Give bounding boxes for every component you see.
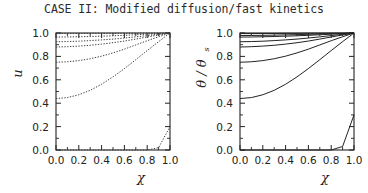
y-tick-label: 0.4 (216, 97, 233, 109)
plot-frame (240, 33, 354, 150)
y-tick-label: 0.0 (216, 144, 233, 156)
plot-left-content: 0.00.20.40.60.81.00.00.20.40.60.81.0χu (10, 27, 178, 185)
data-curve (240, 115, 354, 150)
plot-panel-right: 0.00.20.40.60.81.00.00.20.40.60.81.0χθ /… (184, 26, 368, 193)
figure-page: CASE II: Modified diffusion/fast kinetic… (0, 0, 368, 193)
plot-right-content: 0.00.20.40.60.81.00.00.20.40.60.81.0χθ /… (194, 27, 362, 185)
y-tick-label: 0.4 (32, 97, 49, 109)
x-tick-label: 0.4 (277, 154, 294, 166)
data-curve (56, 127, 170, 150)
x-axis-label: χ (136, 170, 146, 185)
data-curve (240, 33, 354, 62)
y-axis-label: u (10, 69, 25, 77)
y-axis-label-group: u (10, 69, 25, 77)
x-tick-label: 0.4 (93, 154, 110, 166)
y-tick-label: 0.8 (32, 50, 49, 62)
y-tick-label: 1.0 (32, 27, 49, 39)
data-curve (56, 33, 170, 62)
figure-title: CASE II: Modified diffusion/fast kinetic… (0, 2, 368, 16)
plot-frame (56, 33, 170, 150)
y-axis-label: θ / θ (194, 59, 209, 87)
y-axis-label-group: θ / θs (194, 47, 211, 87)
x-tick-label: 0.0 (48, 154, 65, 166)
y-tick-label: 0.6 (216, 74, 233, 86)
plot-left-svg: 0.00.20.40.60.81.00.00.20.40.60.81.0χu (0, 26, 184, 193)
x-tick-label: 0.6 (300, 154, 317, 166)
y-tick-label: 1.0 (216, 27, 233, 39)
plot-panel-left: 0.00.20.40.60.81.00.00.20.40.60.81.0χu (0, 26, 184, 193)
x-tick-label: 0.2 (70, 154, 87, 166)
x-tick-label: 0.8 (323, 154, 340, 166)
y-tick-label: 0.8 (216, 50, 233, 62)
x-axis-label: χ (320, 170, 330, 185)
x-tick-label: 0.2 (254, 154, 271, 166)
y-tick-label: 0.2 (32, 121, 49, 133)
x-tick-label: 0.6 (116, 154, 133, 166)
y-tick-label: 0.0 (32, 144, 49, 156)
x-tick-label: 0.0 (232, 154, 249, 166)
x-tick-label: 1.0 (346, 154, 363, 166)
plot-right-svg: 0.00.20.40.60.81.00.00.20.40.60.81.0χθ /… (184, 26, 368, 193)
y-tick-label: 0.6 (32, 74, 49, 86)
y-axis-label-subscript: s (202, 47, 211, 51)
x-tick-label: 1.0 (162, 154, 179, 166)
y-tick-label: 0.2 (216, 121, 233, 133)
x-tick-label: 0.8 (139, 154, 156, 166)
